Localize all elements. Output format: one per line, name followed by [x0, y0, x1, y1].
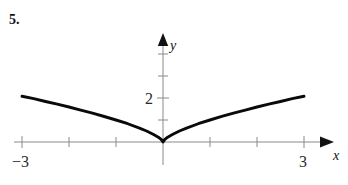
y-axis-label: y — [168, 38, 177, 53]
x-tick-label-3: 3 — [299, 153, 307, 170]
graph-plot: x y −3 3 2 — [0, 0, 348, 185]
figure-container: 5. x y −3 3 2 — [0, 0, 348, 185]
x-axis-arrow-icon — [320, 137, 334, 148]
x-axis-label: x — [332, 148, 340, 163]
x-tick-label-minus-3: −3 — [12, 153, 29, 170]
y-tick-label-2: 2 — [145, 90, 153, 107]
y-axis-arrow-icon — [158, 33, 168, 46]
